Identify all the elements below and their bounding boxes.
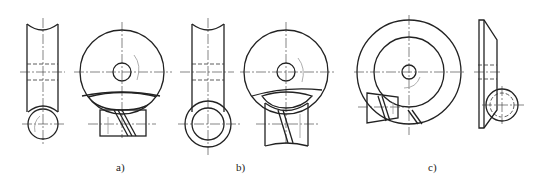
panel-a bbox=[20, 18, 172, 145]
front-view-wheel-b bbox=[240, 22, 334, 145]
workpiece-taper-c bbox=[358, 93, 422, 124]
panel-label-b: b) bbox=[236, 161, 245, 173]
workpiece-circle-b bbox=[178, 101, 240, 147]
panel-b bbox=[178, 18, 334, 155]
rotation-arrow-icon bbox=[298, 58, 303, 82]
rotation-arrow-icon bbox=[134, 55, 139, 80]
workpiece-circle-c bbox=[482, 86, 526, 124]
front-view-wheel-c bbox=[354, 15, 466, 135]
diagram-canvas bbox=[0, 0, 534, 187]
workpiece-block-b bbox=[256, 103, 318, 146]
panel-label-a: a) bbox=[116, 161, 125, 173]
panel-label-c: c) bbox=[428, 161, 437, 173]
panel-c bbox=[354, 15, 526, 135]
